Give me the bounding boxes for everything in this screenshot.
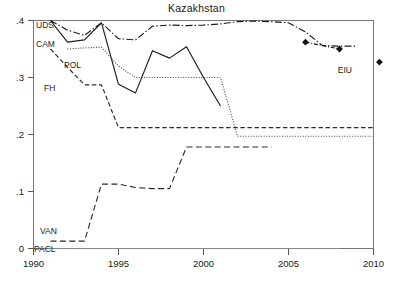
y-tick-label-0: 0 — [19, 243, 24, 254]
series-label-pacl: PACL — [34, 244, 56, 254]
series-label-cam: CAM — [36, 39, 55, 49]
series-label-fh: FH — [44, 83, 55, 93]
series-label-pol: POL — [64, 60, 81, 70]
x-tick-label-1: 1995 — [108, 258, 129, 269]
y-axis: 0 .1 .2 .3 .4 — [16, 15, 33, 254]
series-line-pol — [68, 47, 374, 136]
x-tick-label-3: 2005 — [278, 258, 299, 269]
series-label-eiu: EIU — [338, 65, 352, 75]
series-marker-eiu-legend — [376, 59, 383, 66]
y-tick-label-3: .3 — [16, 72, 24, 83]
y-tick-label-1: .1 — [16, 186, 24, 197]
series-line-fh — [51, 49, 374, 128]
chart-plot-area: 0 .1 .2 .3 .4 1990 1995 2000 2005 2010 U… — [0, 0, 393, 284]
series-line-van — [51, 147, 272, 241]
y-tick-label-4: .4 — [16, 15, 24, 26]
series-layer — [51, 21, 383, 249]
series-marker-eiu-0 — [302, 39, 309, 46]
x-tick-label-0: 1990 — [23, 258, 44, 269]
x-axis: 1990 1995 2000 2005 2010 — [23, 249, 384, 270]
series-label-layer: UDS CAM POL FH VAN PACL EIU — [34, 20, 352, 254]
series-label-uds: UDS — [36, 20, 54, 30]
chart-figure: Kazakhstan 0 .1 .2 .3 .4 1990 1995 2000 — [0, 0, 393, 284]
y-tick-label-2: .2 — [16, 129, 24, 140]
x-tick-label-4: 2010 — [363, 258, 384, 269]
series-line-uds — [51, 21, 357, 47]
series-label-van: VAN — [40, 226, 57, 236]
plot-frame — [34, 21, 374, 249]
x-tick-label-2: 2000 — [193, 258, 214, 269]
